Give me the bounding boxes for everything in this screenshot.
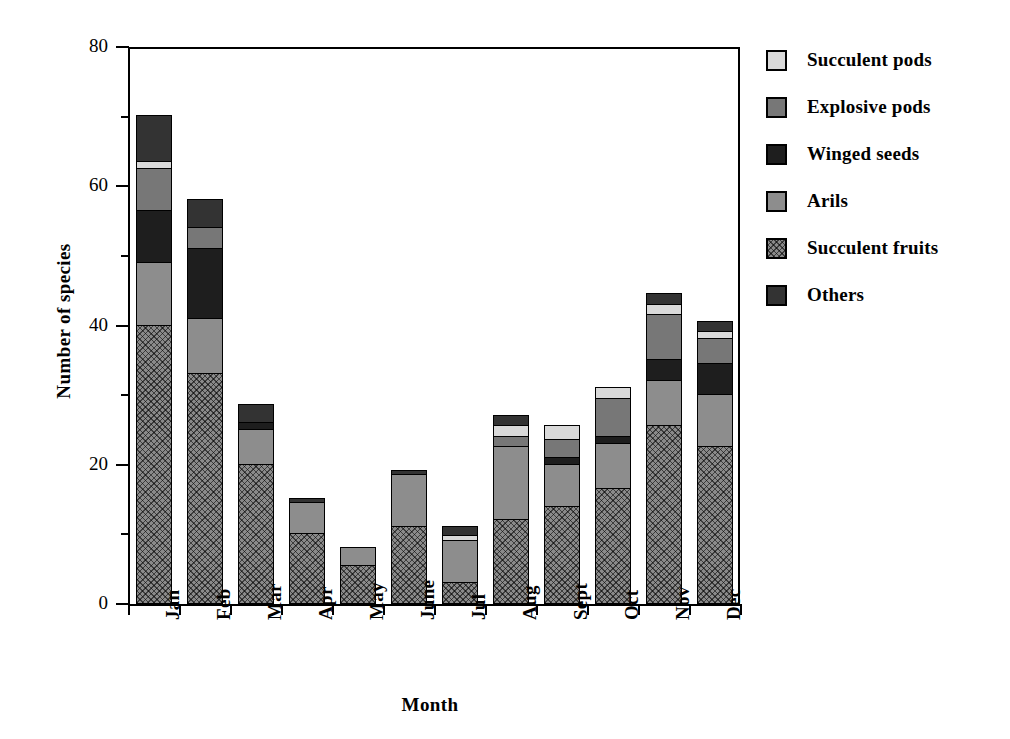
bar-segment bbox=[595, 387, 631, 399]
bar-segment bbox=[646, 303, 682, 315]
bar-segment bbox=[595, 442, 631, 489]
bar-segment bbox=[136, 167, 172, 210]
chart-figure: Number of species Month 020406080 JanFeb… bbox=[0, 0, 1010, 739]
x-axis-title: Month bbox=[120, 694, 740, 716]
x-label-aug: Aug bbox=[519, 530, 541, 620]
bar-segment bbox=[238, 404, 274, 423]
bar-segment bbox=[544, 463, 580, 506]
legend-swatch-icon bbox=[766, 191, 787, 212]
bar-segment bbox=[646, 293, 682, 305]
legend-swatch-icon bbox=[766, 50, 787, 71]
bar-segment bbox=[493, 425, 529, 437]
legend-label: Others bbox=[807, 284, 864, 306]
legend-swatch-icon bbox=[766, 97, 787, 118]
bar-segment bbox=[187, 317, 223, 374]
legend-swatch-icon bbox=[766, 238, 787, 259]
bar-segment bbox=[697, 321, 733, 333]
x-label-dec: Dec bbox=[723, 530, 745, 620]
chart-legend: Succulent podsExplosive podsWinged seeds… bbox=[766, 48, 1006, 330]
legend-item[interactable]: Succulent fruits bbox=[766, 236, 1006, 260]
bar-series-group bbox=[128, 47, 740, 604]
legend-item[interactable]: Arils bbox=[766, 189, 1006, 213]
x-label-nov: Nov bbox=[672, 530, 694, 620]
bar-segment bbox=[136, 261, 172, 325]
y-tick-label: 20 bbox=[36, 454, 108, 473]
y-tick-label: 80 bbox=[36, 36, 108, 55]
legend-label: Succulent pods bbox=[807, 49, 932, 71]
legend-item[interactable]: Succulent pods bbox=[766, 48, 1006, 72]
legend-swatch-icon bbox=[766, 285, 787, 306]
bar-segment bbox=[289, 498, 325, 503]
legend-label: Succulent fruits bbox=[807, 237, 938, 259]
bar-segment bbox=[493, 435, 529, 447]
bar-segment bbox=[391, 474, 427, 528]
legend-label: Winged seeds bbox=[807, 143, 919, 165]
bar-segment bbox=[136, 115, 172, 162]
bar-segment bbox=[187, 199, 223, 228]
x-label-apr: Apr bbox=[315, 530, 337, 620]
y-tick-label: 60 bbox=[36, 175, 108, 194]
legend-item[interactable]: Explosive pods bbox=[766, 95, 1006, 119]
bar-segment bbox=[697, 362, 733, 395]
bar-segment bbox=[544, 439, 580, 458]
legend-item[interactable]: Winged seeds bbox=[766, 142, 1006, 166]
x-label-oct: Oct bbox=[621, 530, 643, 620]
x-tick bbox=[128, 604, 130, 615]
y-tick-label: 40 bbox=[36, 315, 108, 334]
x-label-may: May bbox=[366, 530, 388, 620]
bar-segment bbox=[238, 428, 274, 464]
legend-label: Arils bbox=[807, 190, 848, 212]
y-tick-label: 0 bbox=[36, 593, 108, 612]
bar-segment bbox=[391, 470, 427, 475]
bar-segment bbox=[595, 397, 631, 437]
bar-segment bbox=[493, 415, 529, 427]
bar-segment bbox=[187, 227, 223, 249]
x-label-june: June bbox=[417, 530, 439, 620]
legend-label: Explosive pods bbox=[807, 96, 931, 118]
bar-segment bbox=[646, 380, 682, 427]
bar-segment bbox=[646, 314, 682, 361]
bar-segment bbox=[646, 359, 682, 381]
bar-segment bbox=[493, 446, 529, 521]
x-label-mar: Mar bbox=[264, 530, 286, 620]
x-label-jul: Jul bbox=[468, 530, 490, 620]
x-label-feb: Feb bbox=[213, 530, 235, 620]
x-label-jan: Jan bbox=[162, 530, 184, 620]
bar-segment bbox=[187, 247, 223, 318]
y-axis-tick-labels: 020406080 bbox=[28, 0, 108, 739]
bar-segment bbox=[697, 394, 733, 448]
bar-segment bbox=[697, 338, 733, 364]
legend-swatch-icon bbox=[766, 144, 787, 165]
legend-item[interactable]: Others bbox=[766, 283, 1006, 307]
x-label-sept: Sept bbox=[570, 530, 592, 620]
bar-segment bbox=[544, 425, 580, 440]
bar-segment bbox=[136, 209, 172, 263]
